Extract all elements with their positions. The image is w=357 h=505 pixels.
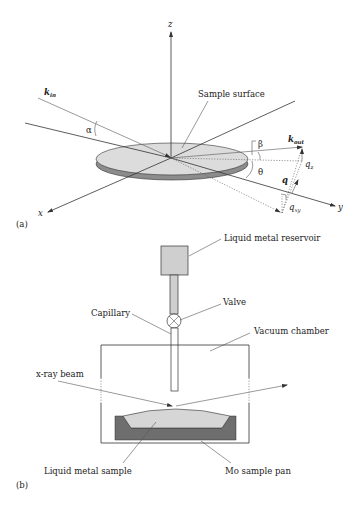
- q-xy-label: qxy: [289, 202, 302, 214]
- capillary-label: Capillary: [91, 308, 130, 318]
- beta-label: β: [258, 139, 263, 149]
- q-arrow: [292, 180, 298, 193]
- sample-surface-label: Sample surface: [198, 89, 265, 99]
- y-axis-label: y: [337, 202, 343, 212]
- panel-a: z x y kin α Sample surface kout β θ: [16, 19, 343, 229]
- theta-label: θ: [258, 167, 263, 177]
- xray-beam-in: [58, 381, 172, 406]
- vacuum-chamber-label: Vacuum chamber: [253, 326, 330, 336]
- liquid-metal-sample-label: Liquid metal sample: [44, 466, 132, 476]
- sample-pan-label: Mo sample pan: [225, 466, 291, 476]
- valve-label: Valve: [222, 297, 246, 307]
- alpha-label: α: [86, 125, 92, 135]
- x-axis-label: x: [38, 208, 43, 218]
- xray-beam-label: x-ray beam: [36, 369, 84, 379]
- k-in-label: kin: [44, 87, 56, 98]
- z-axis-label: z: [167, 19, 173, 29]
- reservoir-leader: [189, 239, 221, 256]
- valve-icon: [167, 314, 181, 328]
- k-out-label: kout: [288, 134, 305, 145]
- beta-bracket: [252, 141, 256, 155]
- reservoir-box: [161, 246, 188, 275]
- surface-projection-line: [25, 123, 171, 158]
- sample-disk: [96, 143, 248, 180]
- liquid-metal-sample: [123, 409, 230, 428]
- beta-arc: [258, 152, 260, 160]
- reservoir-label: Liquid metal reservoir: [224, 233, 321, 243]
- panel-b-label: (b): [16, 480, 28, 490]
- capillary-upper: [170, 275, 178, 314]
- q-label: q: [282, 175, 288, 185]
- sample-surface-leader: [182, 101, 208, 148]
- valve-leader: [180, 304, 221, 320]
- k-in-vector: [38, 98, 170, 157]
- capillary-leader: [132, 314, 171, 334]
- xray-beam-out: [176, 385, 287, 406]
- diagram-canvas: z x y kin α Sample surface kout β θ: [0, 0, 357, 505]
- vacuum-chamber-leader: [210, 333, 250, 351]
- q-z-label: qz: [305, 159, 313, 170]
- sample-pan-leader: [201, 441, 231, 463]
- capillary-lower: [171, 328, 178, 391]
- panel-b: Liquid metal reservoir Valve Capillary V…: [16, 233, 330, 490]
- panel-a-label: (a): [16, 219, 28, 229]
